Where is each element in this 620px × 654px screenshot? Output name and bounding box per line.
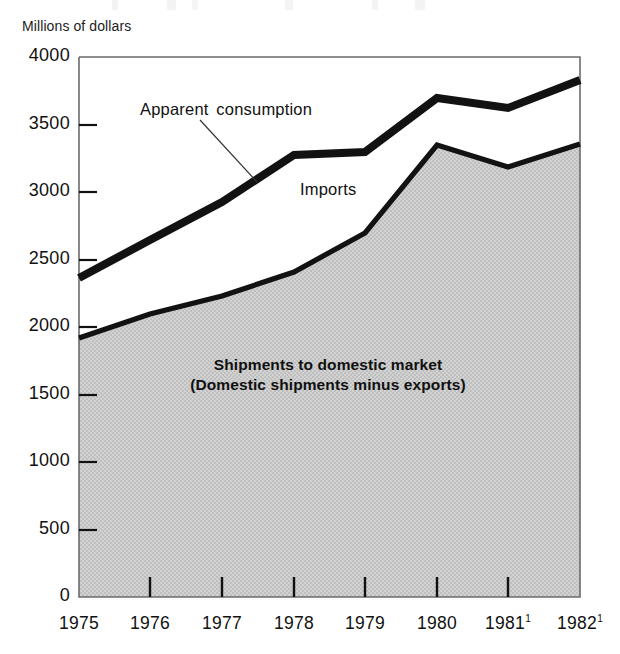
y-tick-label: 2500: [12, 248, 70, 269]
footnote-marker: 1: [597, 613, 603, 624]
y-tick-label: 1000: [12, 450, 70, 471]
x-tick-text: 1981: [485, 613, 525, 633]
x-tick-text: 1977: [202, 613, 242, 633]
y-tick-label: 3000: [12, 180, 70, 201]
x-tick-text: 1982: [557, 613, 597, 633]
x-tick-label-1976: 1976: [110, 613, 190, 634]
plot-canvas: [0, 0, 620, 654]
x-tick-label-1982: 19821: [540, 613, 620, 634]
area-caption: Shipments to domestic market (Domestic s…: [118, 355, 538, 395]
footnote-marker: 1: [525, 613, 531, 624]
callout-apparent-consumption: Apparent consumption: [140, 100, 312, 119]
y-tick-label: 3500: [12, 113, 70, 134]
chart-figure: Millions of dollars: [0, 0, 620, 654]
callout-leader-line: [200, 120, 257, 182]
x-tick-label-1975: 1975: [39, 613, 119, 634]
area-caption-line-2: (Domestic shipments minus exports): [118, 375, 538, 395]
x-tick-label-1981: 19811: [468, 613, 548, 634]
callout-imports: Imports: [300, 180, 356, 199]
y-tick-label: 0: [12, 585, 70, 606]
x-tick-text: 1978: [274, 613, 314, 633]
x-tick-label-1980: 1980: [397, 613, 477, 634]
x-tick-label-1977: 1977: [182, 613, 262, 634]
x-tick-text: 1975: [59, 613, 99, 633]
y-tick-label: 1500: [12, 383, 70, 404]
x-tick-text: 1976: [130, 613, 170, 633]
y-tick-label: 2000: [12, 315, 70, 336]
x-tick-label-1979: 1979: [325, 613, 405, 634]
y-tick-label: 500: [12, 518, 70, 539]
y-tick-label: 4000: [12, 45, 70, 66]
area-caption-line-1: Shipments to domestic market: [118, 355, 538, 375]
x-tick-text: 1980: [417, 613, 457, 633]
x-tick-label-1978: 1978: [254, 613, 334, 634]
x-tick-text: 1979: [345, 613, 385, 633]
